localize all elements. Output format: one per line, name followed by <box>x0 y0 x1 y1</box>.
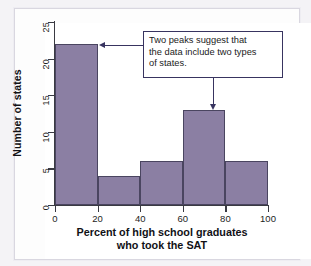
annotation-line-2: the data include two types <box>149 47 278 59</box>
y-tick-label-0: 0 <box>41 205 51 210</box>
x-tick-60 <box>183 206 184 212</box>
bar-60-80 <box>183 110 226 205</box>
x-tick-80 <box>225 206 226 212</box>
x-tick-0 <box>55 206 56 212</box>
bar-80-100 <box>225 161 268 205</box>
x-tick-label-20: 20 <box>92 213 103 224</box>
y-tick-label-25: 25 <box>41 22 51 32</box>
annotation-arrow-left-stem <box>104 45 143 46</box>
y-tick-label-10: 10 <box>41 132 51 142</box>
x-tick-label-60: 60 <box>178 213 189 224</box>
x-tick-40 <box>140 206 141 212</box>
annotation-callout: Two peaks suggest that the data include … <box>143 31 283 78</box>
annotation-arrow-left-head-icon <box>99 42 105 48</box>
bar-40-60 <box>140 161 183 205</box>
x-tick-label-100: 100 <box>260 213 276 224</box>
x-axis-title: Percent of high school graduates who too… <box>77 226 248 252</box>
y-tick-label-15: 15 <box>41 95 51 105</box>
x-tick-label-0: 0 <box>52 213 57 224</box>
x-tick-label-80: 80 <box>220 213 231 224</box>
annotation-arrow-down-stem <box>213 78 214 105</box>
y-tick-label-20: 20 <box>41 59 51 69</box>
x-tick-100 <box>268 206 269 212</box>
y-axis-title: Number of states <box>11 69 23 156</box>
annotation-line-1: Two peaks suggest that <box>149 35 278 47</box>
y-tick-label-5: 5 <box>41 168 51 173</box>
x-axis-line <box>54 205 269 206</box>
x-tick-20 <box>98 206 99 212</box>
x-axis-title-line-2: who took the SAT <box>77 239 248 252</box>
annotation-line-3: of states. <box>149 58 278 70</box>
annotation-arrow-down-head-icon <box>210 104 216 110</box>
bar-20-40 <box>98 176 141 205</box>
x-tick-label-40: 40 <box>135 213 146 224</box>
x-axis-title-line-1: Percent of high school graduates <box>77 226 248 239</box>
figure-container: 0 5 10 15 20 25 0 20 40 60 80 100 <box>0 0 311 266</box>
bar-0-20 <box>55 44 98 205</box>
plot-area: 0 5 10 15 20 25 0 20 40 60 80 100 <box>0 0 311 266</box>
